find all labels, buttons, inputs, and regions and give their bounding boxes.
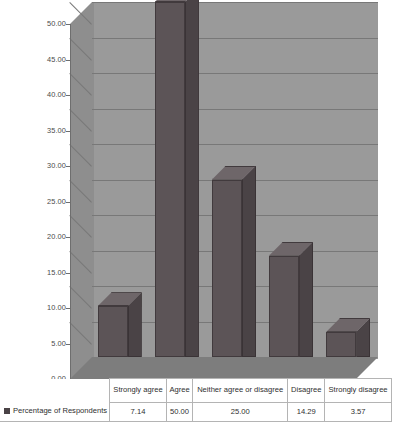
chart-plot-area: 0.005.0010.0015.0020.0025.0030.0035.0040… bbox=[0, 0, 396, 380]
table-header-cell: Disagree bbox=[288, 379, 325, 403]
bar-side-face bbox=[185, 0, 199, 357]
y-axis-tick bbox=[66, 344, 71, 345]
bar-side-face bbox=[242, 166, 256, 358]
square-marker-icon bbox=[4, 408, 10, 414]
legend-entry: Percentage of Respondents bbox=[0, 403, 110, 422]
y-axis-tick bbox=[66, 60, 71, 61]
y-axis-tick-label: 40.00 bbox=[47, 90, 66, 99]
y-axis-line bbox=[70, 24, 71, 381]
y-axis-tick bbox=[66, 24, 71, 25]
gridline bbox=[92, 73, 378, 74]
gridline bbox=[92, 38, 378, 39]
y-axis-tick bbox=[66, 202, 71, 203]
table-header-cell: Strongly disagree bbox=[325, 379, 392, 403]
y-axis-tick-label: 50.00 bbox=[47, 19, 66, 28]
table-value-cell: 25.00 bbox=[193, 403, 288, 422]
bar-4 bbox=[269, 242, 313, 357]
bar-front-face bbox=[98, 306, 128, 357]
table-header-cell: Strongly agree bbox=[110, 379, 167, 403]
table-value-cell: 3.57 bbox=[325, 403, 392, 422]
gridline bbox=[92, 2, 378, 3]
table-header-cell: Neither agree or disagree bbox=[193, 379, 288, 403]
table-corner-blank bbox=[0, 379, 110, 403]
bar-5 bbox=[326, 318, 370, 357]
y-axis-tick-label: 45.00 bbox=[47, 55, 66, 64]
y-axis-tick-label: 25.00 bbox=[47, 197, 66, 206]
table-value-cell: 7.14 bbox=[110, 403, 167, 422]
y-axis-tick bbox=[66, 95, 71, 96]
y-axis-tick bbox=[66, 273, 71, 274]
gridline bbox=[92, 109, 378, 110]
y-axis-tick-label: 15.00 bbox=[47, 268, 66, 277]
legend-label: Percentage of Respondents bbox=[13, 406, 107, 415]
bar-1 bbox=[98, 292, 142, 357]
y-axis-tick-label: 5.00 bbox=[51, 339, 66, 348]
y-axis-tick bbox=[66, 308, 71, 309]
gridline bbox=[92, 144, 378, 145]
y-axis-tick bbox=[66, 237, 71, 238]
bar-front-face bbox=[212, 180, 242, 358]
bar-front-face bbox=[269, 256, 299, 357]
bar-3 bbox=[212, 166, 256, 358]
table-header-row: Strongly agree Agree Neither agree or di… bbox=[0, 379, 392, 403]
table-row: Percentage of Respondents 7.14 50.00 25.… bbox=[0, 403, 392, 422]
table-value-cell: 14.29 bbox=[288, 403, 325, 422]
y-axis-tick-label: 20.00 bbox=[47, 232, 66, 241]
table-value-cell: 50.00 bbox=[166, 403, 192, 422]
y-axis-tick-label: 35.00 bbox=[47, 126, 66, 135]
data-table: Strongly agree Agree Neither agree or di… bbox=[0, 378, 392, 422]
bar-front-face bbox=[326, 332, 356, 357]
y-axis-tick bbox=[66, 166, 71, 167]
y-axis-tick bbox=[66, 131, 71, 132]
bar-2 bbox=[155, 0, 199, 357]
y-axis-tick-label: 10.00 bbox=[47, 303, 66, 312]
y-axis-tick-label: 30.00 bbox=[47, 161, 66, 170]
table-header-cell: Agree bbox=[166, 379, 192, 403]
bar-front-face bbox=[155, 2, 185, 357]
bar-side-face bbox=[299, 242, 313, 357]
